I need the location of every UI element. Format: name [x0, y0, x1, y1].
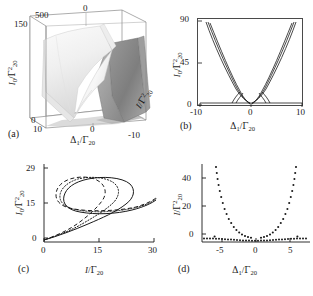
panel-d-axes: [202, 164, 310, 242]
panel-c-xtick-30: 30: [148, 246, 157, 255]
panel-d-xtick-5: 5: [288, 246, 293, 255]
panel-b: 90 45 0 -10 0 10 I0/Γ220 Δ1/Γ20 (b): [160, 0, 313, 148]
panel-b-yaxis-label: I0/Γ220: [170, 45, 184, 85]
panel-a-xaxis-label: Δ1/Γ20: [70, 136, 95, 147]
panel-d-label: (d): [178, 263, 190, 274]
panel-b-xtick-neg10: -10: [190, 108, 202, 117]
series-solid-curve: [44, 177, 156, 240]
panel-c-ytick-15: 15: [26, 199, 35, 208]
panel-d-ytick-40: 40: [182, 174, 191, 183]
series-scatter-points: [203, 166, 307, 242]
panel-b-ytick-90: 90: [180, 15, 189, 24]
panel-a-xtick-0: 0: [90, 125, 95, 134]
panel-d-xaxis-label: Δ1/Γ20: [232, 266, 257, 277]
panel-d-ytick-0: 0: [189, 230, 194, 239]
series-dotted-curve: [44, 177, 156, 240]
series-branch-inner-right: [252, 23, 292, 104]
panel-c-yaxis-label: I0/Γ220: [12, 183, 26, 223]
panel-d-xtick-neg5: -5: [216, 246, 224, 255]
panel-a: 500 150 0 0 10 0 -10 I0/Γ220 Δ1/Γ20 I/Γ2…: [0, 0, 160, 148]
panel-d: 40 20 0 -5 0 5 I/Γ220 Δ1/Γ20 (d): [160, 148, 313, 296]
panel-b-plot: [198, 19, 304, 107]
panel-c-xtick-15: 15: [93, 246, 102, 255]
panel-a-xtick-neg10: -10: [128, 131, 140, 140]
panel-c-axes: [44, 164, 154, 242]
panel-a-ytick-500: 500: [35, 11, 49, 20]
panel-d-xtick-0: 0: [253, 246, 258, 255]
panel-a-ztick-150: 150: [14, 20, 28, 29]
panel-b-label: (b): [180, 120, 192, 131]
panel-c-xtick-0: 0: [41, 246, 46, 255]
panel-b-xaxis-label: Δ1/Γ20: [230, 122, 255, 133]
panel-b-xtick-10: 10: [296, 108, 305, 117]
panel-c-ytick-0: 0: [32, 234, 37, 243]
panel-a-zaxis-label: I0/Γ220: [5, 53, 19, 93]
series-branch-inner-left: [210, 23, 250, 104]
panel-a-depthtick-0: 0: [83, 4, 88, 13]
panel-c-xaxis-label: I/Γ20: [85, 266, 103, 277]
series-hook-right: [262, 92, 270, 103]
series-dashed-curve: [44, 177, 156, 240]
panel-b-xtick-0: 0: [248, 108, 253, 117]
panel-c-label: (c): [18, 263, 29, 274]
panel-d-yaxis-label: I/Γ220: [170, 185, 184, 225]
panel-c: 29 15 0 0 15 30 I0/Γ220 I/Γ20 (c): [0, 148, 160, 296]
panel-c-ytick-29: 29: [26, 164, 35, 173]
panel-a-xtick-10: 10: [33, 125, 42, 134]
panel-a-label: (a): [8, 128, 19, 139]
series-hook-left: [232, 92, 240, 103]
